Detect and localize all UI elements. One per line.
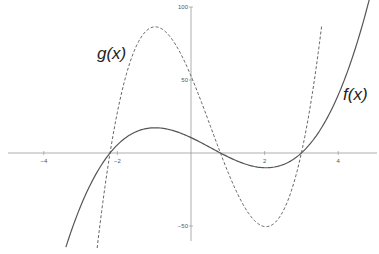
y-tick-label: 100	[178, 4, 189, 10]
function-plot: −4−22410050−50 g(x) f(x)	[0, 0, 379, 254]
curve-f	[66, 0, 375, 247]
label-g: g(x)	[97, 44, 126, 63]
x-tick-label: 4	[337, 158, 341, 164]
x-tick-label: −2	[114, 158, 122, 164]
y-tick-label: 50	[181, 77, 188, 83]
label-f: f(x)	[343, 85, 368, 104]
x-tick-label: 2	[263, 158, 267, 164]
curve-g	[97, 26, 321, 248]
y-tick-label: −50	[178, 223, 189, 229]
x-tick-label: −4	[40, 158, 48, 164]
